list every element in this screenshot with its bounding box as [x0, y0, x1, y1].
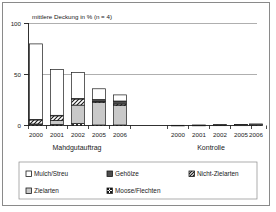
x-tick-marks	[29, 126, 267, 130]
bar-segment	[114, 101, 127, 104]
bar-stack[interactable]	[214, 125, 227, 126]
bar-segment	[72, 99, 85, 105]
bar-stack[interactable]	[93, 89, 106, 126]
legend-swatch-nicht-zielarten	[189, 171, 195, 177]
bar-stack[interactable]	[51, 69, 64, 125]
legend-label-moose-flechten: Moose/Flechten	[115, 187, 161, 194]
bar-segment	[93, 103, 106, 125]
legend-item-nicht-zielarten[interactable]: Nicht-Zielarten	[189, 170, 239, 177]
x-tick-label: 2005	[92, 131, 106, 138]
legend-item-zielarten[interactable]: Zielarten	[26, 187, 59, 194]
bar-segment	[193, 125, 206, 126]
legend-swatch-mulch-streu	[26, 171, 32, 177]
legend-label-gehoelze: Gehölze	[115, 170, 139, 177]
bar-segment	[30, 120, 43, 124]
x-tick-label: 2006	[249, 131, 263, 138]
bar-stack[interactable]	[72, 72, 85, 125]
legend-item-moose-flechten[interactable]: Moose/Flechten	[107, 187, 161, 194]
x-tick-label: 2001	[50, 131, 64, 138]
legend-swatch-gehoelze	[107, 171, 113, 177]
legend-label-mulch-streu: Mulch/Streu	[34, 170, 69, 177]
x-tick-label: 2001	[192, 131, 206, 138]
bar-stack[interactable]	[193, 125, 206, 126]
bar-stack[interactable]	[250, 124, 263, 126]
y-tick-100: 100	[11, 20, 22, 27]
x-tick-label: 2002	[213, 131, 227, 138]
bar-segment	[72, 72, 85, 98]
bar-segment	[30, 44, 43, 119]
x-tick-labels: 2000200120022005200620002001200220052006	[29, 131, 263, 138]
y-axis: 100 50 0	[11, 20, 29, 129]
x-tick-label: 2005	[234, 131, 248, 138]
chart-area: mittlere Deckung in % (n = 4) 100 50 0	[3, 3, 271, 207]
group-label-mahdgutauftrag: Mahdgutauftrag	[52, 144, 101, 152]
legend-swatch-moose-flechten	[107, 188, 113, 194]
bar-segment	[114, 95, 127, 101]
bar-segment	[51, 69, 64, 115]
y-tick-0: 0	[18, 122, 22, 129]
bar-chart-svg: mittlere Deckung in % (n = 4) 100 50 0	[3, 3, 271, 207]
chart-legend: Mulch/Streu Gehölze Nicht-Zielarten Ziel…	[19, 162, 257, 199]
legend-item-gehoelze[interactable]: Gehölze	[107, 170, 139, 177]
bar-segment	[235, 125, 248, 126]
bar-segment	[72, 105, 85, 123]
bar-stack[interactable]	[172, 125, 185, 126]
group-label-kontrolle: Kontrolle	[197, 144, 225, 151]
x-tick-label: 2000	[171, 131, 185, 138]
y-tick-50: 50	[14, 71, 21, 78]
bar-segment	[114, 106, 127, 125]
legend-swatch-zielarten	[26, 188, 32, 194]
bar-segment	[214, 125, 227, 126]
bar-stack[interactable]	[30, 44, 43, 126]
x-tick-label: 2006	[113, 131, 127, 138]
bar-segment	[93, 89, 106, 100]
bar-segment	[51, 116, 64, 121]
bar-segment	[250, 124, 263, 125]
legend-label-nicht-zielarten: Nicht-Zielarten	[197, 170, 239, 177]
bar-stack[interactable]	[235, 125, 248, 126]
legend-label-zielarten: Zielarten	[34, 187, 59, 194]
bar-segment	[172, 125, 185, 126]
x-tick-label: 2000	[29, 131, 43, 138]
x-tick-label: 2002	[71, 131, 85, 138]
chart-title: mittlere Deckung in % (n = 4)	[32, 13, 112, 20]
bar-segment	[51, 120, 64, 124]
bar-stack[interactable]	[114, 95, 127, 126]
chart-frame: mittlere Deckung in % (n = 4) 100 50 0	[2, 2, 270, 206]
